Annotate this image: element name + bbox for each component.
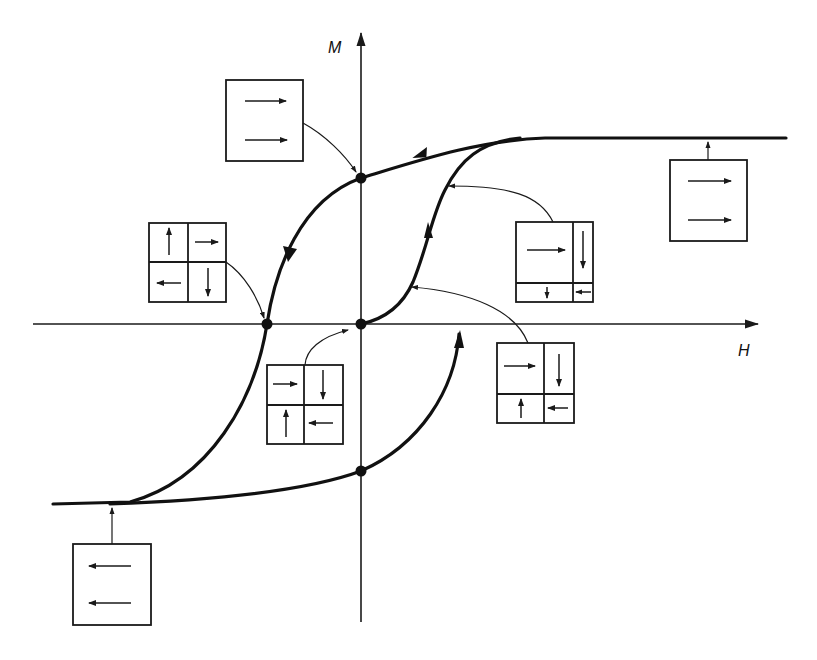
leader-remanence xyxy=(303,123,356,172)
coercive-negative-point xyxy=(262,319,273,330)
remanence-inset xyxy=(226,80,356,172)
axes: M H xyxy=(33,33,758,622)
leader-demagnetized xyxy=(305,330,348,365)
remanence-negative-point xyxy=(356,466,367,477)
hysteresis-diagram: M H xyxy=(0,0,817,660)
demagnetized-inset xyxy=(267,330,348,444)
m-axis-label: M xyxy=(328,39,342,56)
origin-point xyxy=(356,319,367,330)
leader-coercive xyxy=(226,262,264,318)
negative-saturation-inset xyxy=(73,508,151,625)
positive-saturation-inset xyxy=(670,142,747,241)
leader-domain-growth-small xyxy=(412,287,528,343)
virgin-curve xyxy=(361,138,520,324)
h-axis-label: H xyxy=(738,342,750,359)
remanence-positive-point xyxy=(356,173,367,184)
leader-domain-growth-large xyxy=(449,186,553,222)
coercive-inset xyxy=(149,223,264,318)
domain-growth-inset-large xyxy=(449,186,593,302)
